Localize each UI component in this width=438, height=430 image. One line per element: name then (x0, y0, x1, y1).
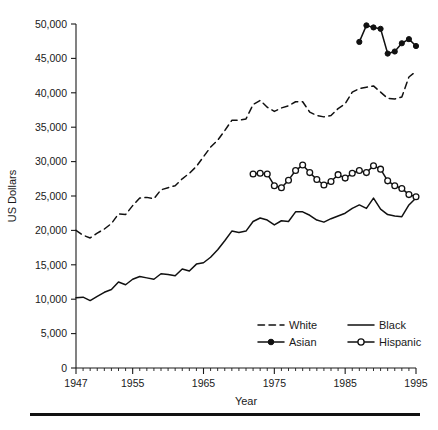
y-tick-label: 25,000 (35, 190, 67, 202)
series-marker-asian (357, 39, 362, 44)
bottom-divider-rule (30, 413, 420, 416)
series-line-hispanic (253, 165, 416, 197)
series-marker-asian (364, 23, 369, 28)
y-tick-label: 10,000 (35, 293, 67, 305)
series-marker-asian (385, 51, 390, 56)
y-axis-title: US Dollars (6, 169, 18, 222)
legend-label-asian: Asian (289, 336, 317, 348)
legend-label-hispanic: Hispanic (379, 336, 422, 348)
series-marker-hispanic (413, 194, 419, 200)
series-marker-hispanic (356, 168, 362, 174)
legend-item-black[interactable]: Black (348, 319, 406, 331)
series-line-black (76, 198, 416, 301)
y-tick-label: 5,000 (41, 327, 67, 339)
series-marker-asian (392, 49, 397, 54)
series-marker-hispanic (371, 163, 377, 169)
series-marker-hispanic (342, 175, 348, 181)
y-tick-label: 15,000 (35, 259, 67, 271)
series-marker-hispanic (364, 170, 370, 176)
series-marker-hispanic (321, 182, 327, 188)
y-tick-label: 35,000 (35, 121, 67, 133)
line-chart-canvas: 05,00010,00015,00020,00025,00030,00035,0… (0, 0, 438, 430)
x-tick-label: 1985 (333, 377, 357, 389)
x-axis-title: Year (235, 395, 258, 407)
series-marker-hispanic (392, 183, 398, 189)
legend-marker-asian (268, 339, 274, 345)
y-tick-label: 0 (61, 362, 67, 374)
series-line-white (76, 71, 416, 238)
x-tick-label: 1947 (64, 377, 88, 389)
series-marker-hispanic (406, 192, 412, 198)
series-marker-hispanic (264, 171, 270, 177)
chart-figure: 05,00010,00015,00020,00025,00030,00035,0… (0, 0, 438, 430)
legend-item-white[interactable]: White (258, 319, 317, 331)
series-marker-hispanic (399, 186, 405, 192)
legend-item-hispanic[interactable]: Hispanic (348, 336, 422, 348)
series-marker-asian (406, 37, 411, 42)
series-marker-hispanic (307, 170, 313, 176)
x-tick-label: 1955 (121, 377, 145, 389)
legend-item-asian[interactable]: Asian (258, 336, 317, 348)
legend-label-white: White (289, 319, 317, 331)
series-marker-hispanic (328, 179, 334, 185)
series-marker-hispanic (385, 178, 391, 184)
series-marker-asian (371, 25, 376, 30)
series-marker-hispanic (314, 177, 320, 183)
series-marker-hispanic (271, 183, 277, 189)
series-marker-hispanic (293, 168, 299, 174)
x-tick-label: 1965 (192, 377, 216, 389)
legend-label-black: Black (379, 319, 406, 331)
series-marker-asian (413, 43, 418, 48)
series-marker-asian (399, 41, 404, 46)
y-tick-label: 20,000 (35, 224, 67, 236)
series-marker-hispanic (257, 170, 263, 176)
y-tick-label: 40,000 (35, 87, 67, 99)
series-marker-hispanic (335, 172, 341, 178)
series-marker-asian (378, 26, 383, 31)
series-marker-hispanic (378, 166, 384, 172)
x-tick-label: 1975 (263, 377, 287, 389)
series-marker-hispanic (300, 162, 306, 168)
y-tick-label: 50,000 (35, 18, 67, 30)
y-tick-label: 45,000 (35, 52, 67, 64)
series-marker-hispanic (250, 171, 256, 177)
legend-marker-hispanic (358, 339, 364, 345)
series-marker-hispanic (349, 170, 355, 176)
series-marker-hispanic (279, 185, 285, 191)
x-tick-label: 1995 (404, 377, 428, 389)
series-marker-hispanic (286, 177, 292, 183)
y-tick-label: 30,000 (35, 155, 67, 167)
